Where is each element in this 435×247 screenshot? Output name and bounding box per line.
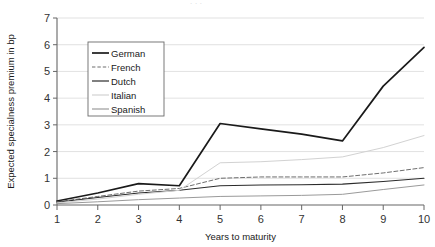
y-tick-label-7: 7 <box>44 12 50 24</box>
x-tick-label-3: 3 <box>135 213 141 225</box>
series-line-italian <box>57 136 424 203</box>
legend-label-spanish: Spanish <box>111 104 145 115</box>
y-tick-label-3: 3 <box>44 119 50 131</box>
y-tick-label-6: 6 <box>44 39 50 51</box>
legend-label-french: French <box>111 62 141 73</box>
x-tick-label-9: 9 <box>380 213 386 225</box>
legend-label-italian: Italian <box>111 90 136 101</box>
y-tick-label-2: 2 <box>44 146 50 158</box>
legend-label-german: German <box>111 48 145 59</box>
clipped-caption-text: · · · <box>190 0 202 8</box>
y-tick-label-4: 4 <box>44 92 50 104</box>
y-axis-ticks: 01234567 <box>44 12 57 211</box>
y-tick-label-0: 0 <box>44 199 50 211</box>
x-axis-title: Years to maturity <box>205 231 276 242</box>
chart-figure: · · ·0123456712345678910Years to maturit… <box>0 0 435 247</box>
legend-label-dutch: Dutch <box>111 76 136 87</box>
line-chart-canvas: · · ·0123456712345678910Years to maturit… <box>0 0 435 247</box>
x-tick-label-2: 2 <box>95 213 101 225</box>
x-tick-label-8: 8 <box>339 213 345 225</box>
x-tick-label-5: 5 <box>217 213 223 225</box>
x-tick-label-4: 4 <box>176 213 182 225</box>
legend: GermanFrenchDutchItalianSpanish <box>88 42 164 116</box>
y-axis-title: Expected specialness premium in bp <box>5 34 16 189</box>
y-tick-label-1: 1 <box>44 172 50 184</box>
x-axis-ticks: 12345678910 <box>54 205 430 225</box>
y-tick-label-5: 5 <box>44 65 50 77</box>
x-tick-label-6: 6 <box>258 213 264 225</box>
x-tick-label-1: 1 <box>54 213 60 225</box>
x-tick-label-7: 7 <box>299 213 305 225</box>
clipped-caption-strip: · · · <box>190 0 202 8</box>
x-tick-label-10: 10 <box>418 213 430 225</box>
